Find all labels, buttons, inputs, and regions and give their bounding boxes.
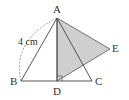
- label-a: A: [53, 3, 61, 15]
- label-c: C: [95, 75, 102, 87]
- geometry-figure: A B C D E 4 cm: [0, 0, 129, 100]
- segment-ab: [21, 18, 57, 81]
- label-d: D: [53, 85, 61, 97]
- label-b: B: [10, 75, 17, 87]
- shaded-triangle-ade: [57, 18, 110, 81]
- label-e: E: [112, 42, 119, 54]
- length-label: 4 cm: [18, 36, 38, 47]
